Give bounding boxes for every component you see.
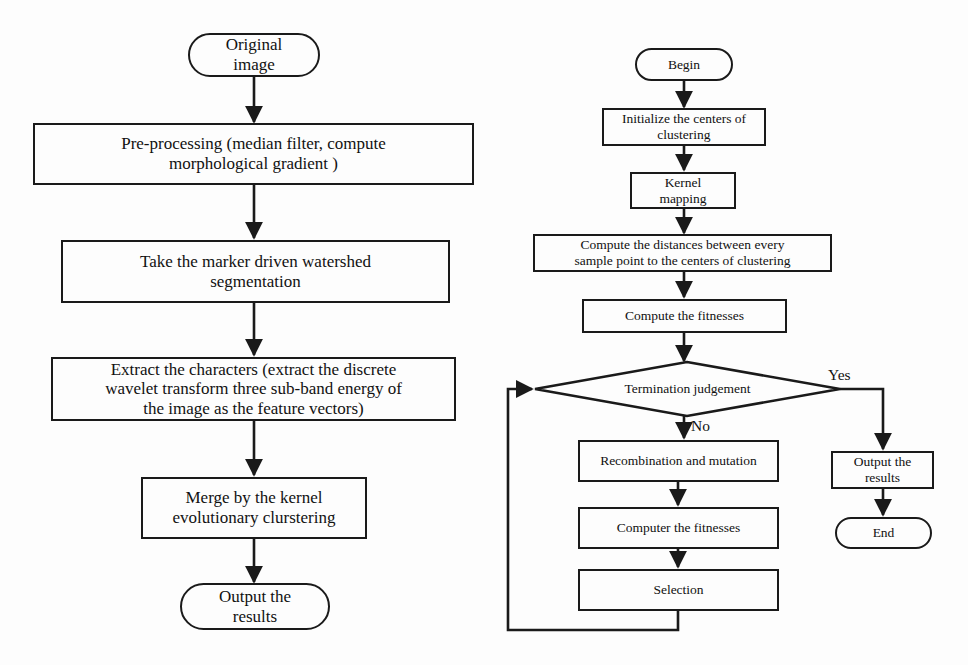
connector-layer [0,0,968,665]
node-computer-fitnesses: Computer the fitnesses [578,507,779,549]
node-output-results-left-label: Output the results [219,587,291,626]
node-begin: Begin [635,48,733,81]
node-output-results-right-label: Output the results [854,454,911,485]
node-end: End [835,517,932,549]
node-compute-distances: Compute the distances between every samp… [533,234,832,272]
node-termination-judgement-label: Termination judgement [624,381,750,397]
node-recombination-mutation-label: Recombination and mutation [600,453,757,469]
node-extract-characters-label: Extract the characters (extract the disc… [105,360,402,419]
node-original-image: Original image [188,33,320,77]
node-end-label: End [873,525,895,541]
node-original-image-label: Original image [226,35,283,74]
edge-label-yes-text: Yes [828,366,851,383]
node-kernel-mapping: Kernel mapping [630,172,736,209]
node-output-results-right: Output the results [831,451,934,489]
node-pre-processing-label: Pre-processing (median filter, compute m… [121,134,386,173]
node-merge-kernel-clustering-label: Merge by the kernel evolutionary clurste… [173,488,336,527]
node-pre-processing: Pre-processing (median filter, compute m… [33,123,474,185]
node-merge-kernel-clustering: Merge by the kernel evolutionary clurste… [141,477,367,539]
node-termination-judgement: Termination judgement [565,374,810,404]
flowchart-figure: Original image Pre-processing (median fi… [0,0,968,665]
edge-label-no: No [691,417,710,435]
node-watershed-segmentation-label: Take the marker driven watershed segment… [140,252,371,291]
node-watershed-segmentation: Take the marker driven watershed segment… [61,240,450,303]
node-recombination-mutation: Recombination and mutation [578,440,779,482]
edge-R6-R10-yes [840,389,883,449]
node-compute-fitnesses: Compute the fitnesses [582,299,787,333]
node-initialize-centers: Initialize the centers of clustering [602,108,766,146]
node-computer-fitnesses-label: Computer the fitnesses [617,520,741,536]
edge-label-yes: Yes [828,366,851,384]
node-compute-distances-label: Compute the distances between every samp… [575,237,791,268]
node-extract-characters: Extract the characters (extract the disc… [51,357,456,421]
node-begin-label: Begin [668,57,700,73]
node-selection-label: Selection [653,582,703,598]
node-output-results-left: Output the results [180,583,330,630]
node-selection: Selection [578,569,779,611]
node-compute-fitnesses-label: Compute the fitnesses [625,308,744,324]
node-initialize-centers-label: Initialize the centers of clustering [622,111,746,142]
edge-label-no-text: No [691,417,710,434]
node-kernel-mapping-label: Kernel mapping [659,175,706,206]
